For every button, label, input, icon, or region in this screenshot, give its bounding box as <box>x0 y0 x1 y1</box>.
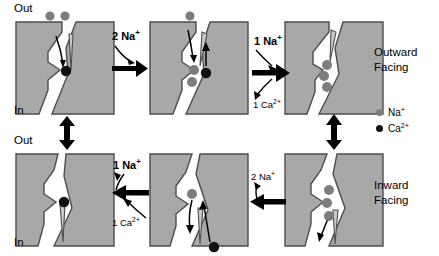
arrow-head-down <box>326 140 342 150</box>
arrow-left-vertical <box>58 116 78 150</box>
figure-canvas: Out In <box>0 0 439 256</box>
arrow-bottom-mid-to-left <box>110 172 152 222</box>
ion-na-free-1 <box>185 11 194 20</box>
curved-hook-out <box>256 79 272 96</box>
ion-na-bound-1 <box>322 60 332 70</box>
panel-top-2 <box>148 18 252 118</box>
ion-na-bound-3 <box>322 82 332 92</box>
panel-bottom-1 <box>14 150 118 250</box>
legend-label-na: Na <box>388 107 401 118</box>
arrow-shaft <box>262 199 286 205</box>
transition-bottom-mid-in-charge: + <box>136 157 141 166</box>
arrow-right-vertical <box>325 114 345 150</box>
arrow-shaft <box>252 70 277 76</box>
arrow-shaft <box>112 66 137 71</box>
legend-charge-ca: 2+ <box>401 120 409 129</box>
ion-entry-arrow <box>56 36 66 68</box>
protein-body-left <box>16 22 62 114</box>
na-dot-icon <box>376 109 383 116</box>
state-label-inward-line2: Facing <box>374 195 409 207</box>
label-in-top: In <box>14 105 24 117</box>
ion-na-bound <box>187 189 197 199</box>
ion-na-bound-2 <box>187 77 197 87</box>
arrow-head <box>276 64 290 82</box>
legend-charge-na: + <box>401 104 405 113</box>
arrow-top-mid-to-right <box>250 48 292 100</box>
label-out-bottom: Out <box>14 135 33 147</box>
legend-item-ca: Ca2+ <box>376 121 409 135</box>
transition-bottom-right-charge: + <box>271 170 275 177</box>
curved-hook-in <box>256 50 272 66</box>
transition-bottom-mid-in-text: 1 Na <box>113 159 136 171</box>
panel-top-1 <box>14 18 118 118</box>
protein-body-left <box>150 154 192 246</box>
panel-top-3 <box>283 18 387 118</box>
state-label-outward-line2: Facing <box>374 62 409 74</box>
legend: Na+ Ca2+ <box>376 105 409 135</box>
panel-bottom-2 <box>148 150 252 250</box>
legend-item-na: Na+ <box>376 105 409 119</box>
legend-label-ca: Ca <box>388 123 401 134</box>
transition-bottom-mid-in-label: 1 Na+ <box>113 160 141 171</box>
protein-body-right <box>52 22 114 114</box>
transition-top-left-text: 2 Na <box>112 30 135 42</box>
arrow-head-up <box>326 114 342 125</box>
ion-na-bound-3 <box>324 211 334 221</box>
transition-top-mid-in-charge: + <box>277 33 282 42</box>
ion-na-bound-2 <box>319 71 329 81</box>
panel-bottom-3 <box>283 150 387 250</box>
transition-top-mid-out-label: 1 Ca2+ <box>253 100 281 110</box>
transition-top-left-label: 2 Na+ <box>112 31 140 42</box>
transition-bottom-right-text: 2 Na <box>251 171 271 182</box>
arrow-head-up <box>59 116 75 126</box>
arrow-top-left-to-mid <box>110 44 150 72</box>
ion-ca-bound <box>61 66 71 76</box>
arrow-head-down <box>59 140 75 150</box>
ion-ca-leaving <box>201 68 211 78</box>
ion-na-free-1 <box>45 11 54 20</box>
protein-body-left <box>285 154 327 246</box>
transition-top-mid-in-label: 1 Na+ <box>254 36 282 47</box>
arrow-head <box>136 60 148 77</box>
transition-bottom-right-label: 2 Na+ <box>251 172 275 182</box>
ion-na-bound-1 <box>189 65 199 75</box>
state-label-inward-line1: Inward <box>374 180 409 192</box>
label-in-bottom: In <box>14 237 24 249</box>
protein-body-left <box>16 154 58 246</box>
label-out-top: Out <box>14 3 33 15</box>
arrow-shaft <box>124 190 149 196</box>
transition-top-mid-in-text: 1 Na <box>254 35 277 47</box>
transition-top-mid-out-text: 1 Ca <box>253 99 273 110</box>
arrow-bottom-right-to-mid <box>248 182 288 212</box>
state-label-outward-line1: Outward <box>374 47 417 59</box>
ion-na-free-2 <box>60 11 69 20</box>
ion-na-bound-2 <box>322 198 332 208</box>
ca-dot-icon <box>376 125 383 132</box>
ion-ca-free <box>209 242 219 252</box>
transition-top-left-charge: + <box>135 28 140 37</box>
ion-na-bound-1 <box>324 185 334 195</box>
ion-ca-bound <box>59 197 69 207</box>
